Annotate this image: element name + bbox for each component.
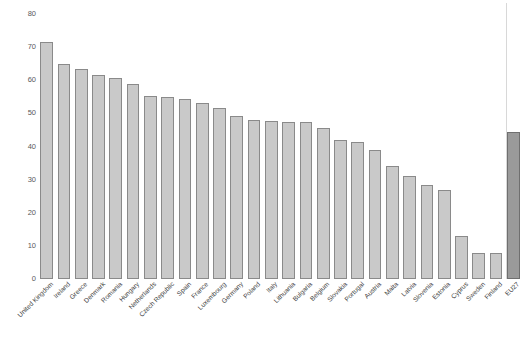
bar <box>248 120 261 279</box>
bar <box>421 185 434 279</box>
bar <box>386 166 399 279</box>
bar <box>179 99 192 279</box>
bar <box>144 96 157 279</box>
x-axis-tick-label: Malta <box>384 281 400 297</box>
y-axis-tick-label: 60 <box>12 77 36 85</box>
bar <box>196 103 209 279</box>
bar <box>213 108 226 279</box>
bar <box>109 78 122 279</box>
plot-area <box>38 14 522 279</box>
bar <box>40 42 53 280</box>
x-axis-tick-label: EU27 <box>505 281 521 297</box>
bar <box>403 176 416 279</box>
bar <box>230 116 243 279</box>
bar <box>127 84 140 279</box>
y-axis-tick-labels: 01020304050607080 <box>6 0 36 338</box>
bar <box>92 75 105 279</box>
y-axis-tick-label: 40 <box>12 143 36 151</box>
bar <box>369 150 382 279</box>
x-axis-tick-label: Austria <box>364 281 383 300</box>
x-axis-tick-label: Estonia <box>432 281 452 301</box>
bar <box>300 122 313 279</box>
y-axis-tick-label: 80 <box>12 10 36 18</box>
bar <box>490 253 503 280</box>
x-axis-tick-label: Finland <box>484 281 504 301</box>
bar <box>334 140 347 279</box>
y-axis-tick-label: 20 <box>12 209 36 217</box>
x-axis-tick-label: Italy <box>266 281 279 294</box>
bar-chart: Proportion of population (%) 01020304050… <box>0 0 526 338</box>
x-axis-tick-label: Poland <box>243 281 262 300</box>
bar <box>438 190 451 279</box>
y-axis-tick-label: 70 <box>12 43 36 51</box>
bar <box>317 128 330 279</box>
y-axis-tick-label: 0 <box>12 275 36 283</box>
x-axis-tick-labels: United KingdomIrelandGreeceDenmarkRomani… <box>38 281 522 338</box>
bar <box>472 253 485 280</box>
y-axis-tick-label: 30 <box>12 176 36 184</box>
y-axis-tick-label: 50 <box>12 110 36 118</box>
bar <box>507 132 520 279</box>
bar <box>282 122 295 279</box>
bar <box>58 64 71 279</box>
bar <box>75 69 88 279</box>
y-axis-tick-label: 10 <box>12 242 36 250</box>
bar <box>265 121 278 279</box>
bar <box>455 236 468 279</box>
bar <box>161 97 174 279</box>
bar <box>351 142 364 279</box>
